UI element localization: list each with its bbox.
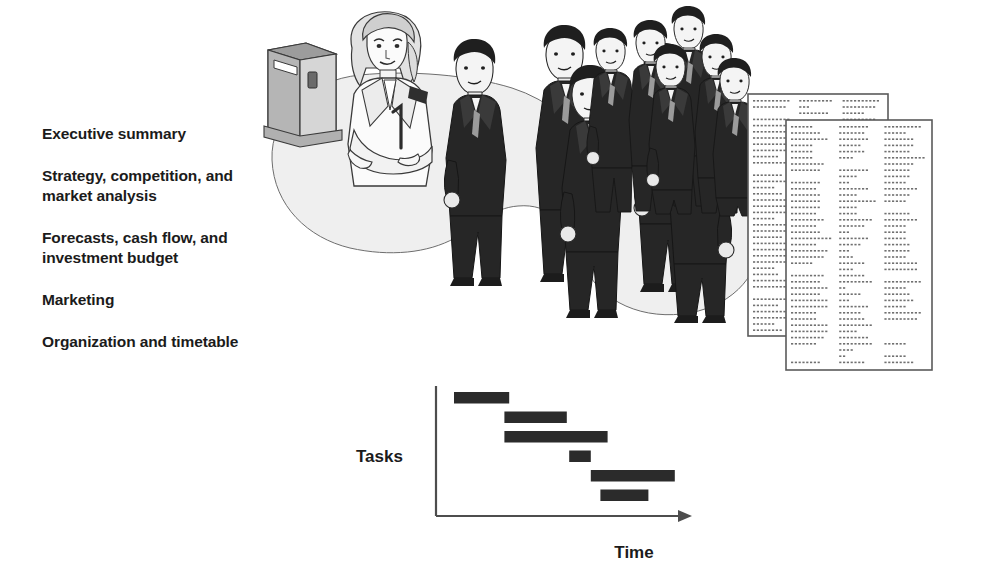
slide-canvas: Executive summary Strategy, competition,…: [0, 0, 990, 575]
businessman-figure: [587, 28, 636, 212]
x-axis-label: Time: [614, 543, 653, 562]
report-page-front: [786, 120, 932, 370]
gantt-chart: Tasks Time: [330, 378, 730, 563]
gantt-bar: [591, 470, 675, 482]
gantt-bar: [504, 412, 566, 424]
gantt-bar: [600, 490, 648, 502]
gantt-bar: [504, 431, 607, 443]
gantt-bar: [454, 392, 509, 404]
report-pages: [740, 82, 940, 382]
lectern-icon: [264, 43, 342, 147]
y-axis-label: Tasks: [356, 447, 403, 466]
gantt-bar: [569, 451, 591, 463]
woman-presenter-figure: [348, 12, 432, 186]
agenda-item: Organization and timetable: [42, 332, 302, 352]
gantt-bars: [454, 392, 675, 501]
x-axis-arrowhead: [678, 510, 692, 522]
